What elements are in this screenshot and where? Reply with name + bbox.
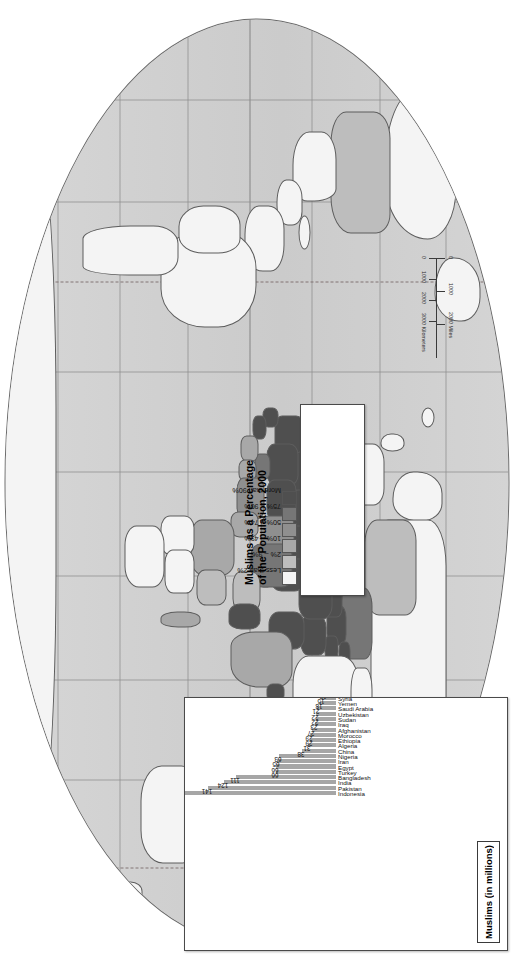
scale-tick (429, 258, 437, 259)
legend-color-swatch (282, 491, 297, 505)
legend-color-swatch (282, 539, 297, 553)
legend-swatch-row: Less than 2%2% – 9%10% – 49%50% – 74%75%… (282, 491, 297, 585)
chart-category-label: Iran (336, 759, 396, 763)
parallel-line (57, 19, 58, 945)
chart-bar-column: 31 (184, 743, 336, 747)
chart-category-label: Ethiopia (336, 738, 396, 742)
chart-bar-column: 29 (184, 738, 336, 742)
chart-category-label: Iraq (336, 722, 396, 726)
scale-label-miles-0: 0 (448, 256, 454, 259)
scale-label-miles-1000: 1000 (448, 283, 454, 295)
region-scandinavia (392, 471, 442, 521)
scale-tick (437, 324, 445, 325)
legend-class-2: 10% – 49% (282, 539, 297, 553)
country-argentina-chile (82, 225, 178, 275)
legend-color-swatch (282, 507, 297, 521)
chart-bar (224, 780, 336, 784)
chart-bar-column: 15 (184, 697, 336, 700)
scale-tick (437, 291, 445, 292)
scale-bar: 0 1000 2000 Miles 0 1000 2000 3000 Kilom… (401, 252, 473, 388)
scale-label-km-1000: 1000 (421, 271, 427, 283)
continent-antarctica (4, 79, 56, 899)
scale-label-km-unit: 3000 Kilometers (421, 313, 427, 352)
legend-inner: Muslims as a Percentage of the Populatio… (238, 404, 301, 594)
chart-inner: 1811411241116666656338312929272322222118… (184, 697, 472, 803)
country-united-states (330, 111, 390, 233)
legend-title: Muslims as a Percentage of the Populatio… (243, 413, 268, 585)
scale-axis (436, 258, 437, 358)
scale-bar-inner: 0 1000 2000 Miles 0 1000 2000 3000 Kilom… (401, 252, 473, 388)
scale-label-miles-unit: 2000 Miles (448, 312, 454, 338)
chart-bar-column: 141 (184, 786, 336, 790)
chart-bar (236, 775, 336, 779)
country-united-kingdom (380, 433, 404, 451)
legend-class-1: 2% – 9% (282, 555, 297, 569)
chart-category-label: Saudi Arabia (336, 706, 396, 710)
chart-title-box: Muslims (in millions) (477, 841, 500, 943)
chart-category-label: Uzbekistan (336, 712, 396, 716)
legend-color-swatch (282, 571, 297, 585)
map-legend: Muslims as a Percentage of the Populatio… (300, 404, 365, 596)
chart-category-label: China (336, 749, 396, 753)
chart-bar-column: 63 (184, 754, 336, 758)
country-somalia (228, 603, 260, 629)
chart-bar-column: 124 (184, 780, 336, 784)
chart-plot-area: 1811411241116666656338312929272322222118… (184, 697, 394, 795)
chart-category-label: Yemen (336, 701, 396, 705)
chart-category-label: Algeria (336, 743, 396, 747)
chart-title: Muslims (in millions) (483, 845, 494, 939)
chart-bar-column: 38 (184, 749, 336, 753)
scale-tick (429, 279, 437, 280)
scale-tick (429, 300, 437, 301)
legend-color-swatch (282, 555, 297, 569)
chart-bar (276, 770, 336, 774)
country-dem-rep-congo (190, 519, 234, 575)
country-madagascar (160, 611, 200, 627)
chart-bar-column: 111 (184, 775, 336, 779)
chart-bar (276, 765, 336, 769)
country-peru-bolivia (178, 205, 240, 253)
country-alaska (412, 59, 446, 105)
chart-bar-value: 111 (230, 777, 240, 784)
muslim-population-bar-chart: 1811411241116666656338312929272322222118… (184, 697, 508, 951)
chart-bar-column: 65 (184, 759, 336, 763)
country-new-zealand (112, 881, 142, 903)
country-canada (384, 89, 456, 239)
country-iceland (421, 407, 434, 427)
chart-category-label: India (336, 780, 396, 784)
chart-category-label: Bangladesh (336, 775, 396, 779)
legend-color-swatch (282, 523, 297, 537)
chart-bar (310, 738, 336, 742)
country-south-africa (124, 525, 164, 587)
scale-tick (429, 321, 437, 322)
country-india (230, 631, 292, 687)
legend-class-0: Less than 2% (282, 571, 297, 585)
chart-bar-value: 124 (217, 782, 228, 789)
chart-category-label: Syria (336, 697, 396, 700)
legend-class-3: 50% – 74% (282, 523, 297, 537)
chart-bars: 1811411241116666656338312929272322222118… (184, 697, 336, 795)
chart-bar-column: 66 (184, 765, 336, 769)
chart-bar-column: 66 (184, 770, 336, 774)
scale-label-km-2000: 2000 (421, 292, 427, 304)
chart-bar-value: 13 (320, 697, 327, 700)
country-zambia-zimbabwe (164, 549, 194, 593)
chart-category-label: Egypt (336, 765, 396, 769)
chart-bar-value: 141 (202, 788, 213, 795)
scale-tick (437, 258, 445, 259)
chart-category-label: Afghanistan (336, 728, 396, 732)
chart-bar (277, 759, 336, 763)
chart-bar-column: 18 (184, 701, 336, 705)
legend-title-line2: of the Population, 2000 (256, 413, 269, 585)
chart-bar-value: 63 (274, 756, 281, 763)
chart-category-label: Indonesia (336, 791, 396, 795)
chart-bar (279, 754, 336, 758)
chart-bar-column: 21 (184, 706, 336, 710)
legend-class-5: More than 90% (282, 491, 297, 505)
legend-class-4: 75% – 90% (282, 507, 297, 521)
chart-category-label: Nigeria (336, 754, 396, 758)
chart-category-labels: IndonesiaPakistanIndiaBangladeshTurkeyEg… (336, 697, 396, 795)
chart-category-label: Sudan (336, 717, 396, 721)
map-page: 0 1000 2000 Miles 0 1000 2000 3000 Kilom… (0, 0, 515, 962)
legend-title-line1: Muslims as a Percentage (243, 413, 256, 585)
